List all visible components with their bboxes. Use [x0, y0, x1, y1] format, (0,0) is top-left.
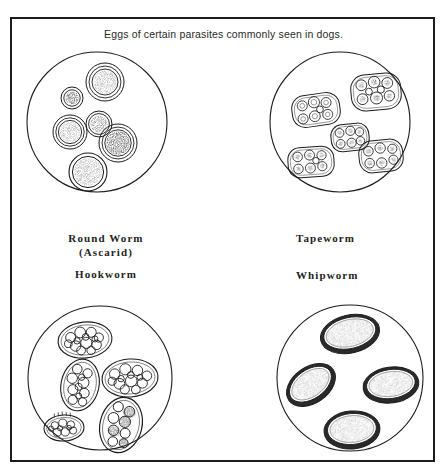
- whipworm-label: Whipworm: [296, 268, 406, 282]
- roundworm-label-line2: (Ascarid): [52, 245, 160, 259]
- figure-title: Eggs of certain parasites commonly seen …: [0, 28, 447, 40]
- parasite-egg-figure: Eggs of certain parasites commonly seen …: [0, 0, 447, 474]
- roundworm-label: Round Worm (Ascarid): [52, 231, 160, 259]
- hookworm-label: Hookworm: [52, 267, 160, 281]
- roundworm-label-line1: Round Worm: [52, 231, 160, 245]
- tapeworm-label: Tapeworm: [296, 231, 406, 245]
